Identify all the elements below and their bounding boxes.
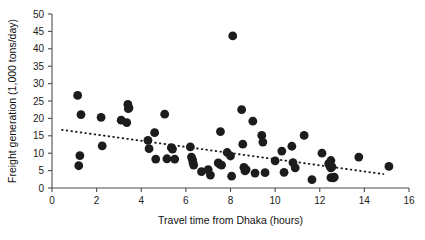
data-point [98, 141, 107, 150]
data-point [318, 149, 327, 158]
y-tick-label: 25 [33, 96, 45, 107]
y-tick-label: 15 [33, 130, 45, 141]
data-point [206, 171, 215, 180]
data-point [216, 127, 225, 136]
x-tick-label: 10 [270, 195, 282, 206]
x-tick-label: 12 [314, 195, 326, 206]
data-point [354, 153, 363, 162]
data-point [280, 168, 289, 177]
y-tick-label: 30 [33, 78, 45, 89]
y-axis-ticks: 05101520253035404550 [33, 9, 52, 194]
data-point [186, 143, 195, 152]
data-point [144, 136, 153, 145]
y-axis-title: Freight generation (1,000 tons/day) [6, 19, 18, 183]
data-point [228, 32, 237, 41]
data-point [163, 154, 172, 163]
data-point [242, 165, 251, 174]
data-point [271, 156, 280, 165]
data-point [258, 138, 267, 147]
x-axis-title: Travel time from Dhaka (hours) [158, 214, 303, 226]
data-point [277, 147, 286, 156]
data-point [328, 162, 337, 171]
x-tick-label: 0 [49, 195, 55, 206]
data-point [251, 169, 260, 178]
data-point [75, 151, 84, 160]
data-point [227, 172, 236, 181]
data-points [73, 32, 393, 185]
data-point [150, 128, 159, 137]
x-tick-label: 16 [403, 195, 415, 206]
x-tick-label: 4 [138, 195, 144, 206]
data-point [300, 131, 309, 140]
data-point [74, 161, 83, 170]
y-tick-label: 5 [38, 165, 44, 176]
data-point [217, 161, 226, 170]
data-point [385, 162, 394, 171]
data-point [170, 155, 179, 164]
y-tick-label: 40 [33, 43, 45, 54]
x-tick-label: 14 [359, 195, 371, 206]
data-point [73, 91, 82, 100]
y-tick-label: 35 [33, 61, 45, 72]
data-point [238, 140, 247, 149]
data-point [124, 104, 133, 113]
data-point [97, 113, 106, 122]
data-point [189, 161, 198, 170]
plot-area: 05101520253035404550 0246810121416 Trave… [0, 0, 425, 240]
y-tick-label: 0 [38, 183, 44, 194]
data-point [160, 110, 169, 119]
x-axis-ticks: 0246810121416 [49, 188, 415, 206]
data-point [151, 155, 160, 164]
data-point [77, 110, 86, 119]
x-tick-label: 6 [183, 195, 189, 206]
y-tick-label: 20 [33, 113, 45, 124]
data-point [291, 163, 300, 172]
y-tick-label: 10 [33, 148, 45, 159]
data-point [237, 105, 246, 114]
x-tick-label: 8 [228, 195, 234, 206]
data-point [330, 173, 339, 182]
scatter-chart: 05101520253035404550 0246810121416 Trave… [0, 0, 425, 240]
data-point [122, 118, 131, 127]
data-point [308, 175, 317, 184]
data-point [226, 152, 235, 161]
data-point [287, 142, 296, 151]
data-point [145, 144, 154, 153]
x-tick-label: 2 [94, 195, 100, 206]
data-point [248, 117, 257, 126]
data-point [168, 145, 177, 154]
y-tick-label: 45 [33, 26, 45, 37]
data-point [261, 168, 270, 177]
y-tick-label: 50 [33, 9, 45, 20]
